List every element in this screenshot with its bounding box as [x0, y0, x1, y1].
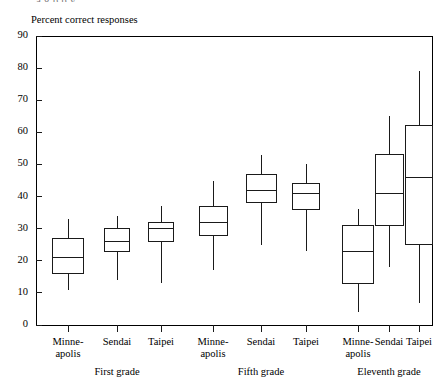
box-eleventh-grade-sendai [375, 116, 403, 267]
y-tick-label-80: 80 [2, 62, 28, 72]
box-body [406, 126, 433, 245]
y-tick-label-40: 40 [2, 191, 28, 201]
box-first-grade-sendai [105, 216, 130, 280]
plot-canvas [0, 0, 441, 386]
x-category-label-line: apolis [330, 348, 386, 360]
box-body [149, 222, 174, 241]
x-category-label-line: Taipei [133, 336, 189, 348]
x-category-label-line: Taipei [391, 336, 441, 348]
box-body [246, 174, 276, 203]
box-fifth-grade-minneapolis [199, 181, 227, 271]
y-tick-label-50: 50 [2, 158, 28, 168]
box-body [375, 155, 403, 226]
y-tick-label-30: 30 [2, 223, 28, 233]
group-label-1: Fifth grade [201, 366, 321, 377]
y-tick-label-90: 90 [2, 30, 28, 40]
box-body [105, 229, 130, 251]
x-category-label-8: Taipei [391, 336, 441, 348]
x-category-label-line: Minne- [40, 336, 96, 348]
y-tick-label-70: 70 [2, 94, 28, 104]
x-category-label-2: Taipei [133, 336, 189, 348]
x-category-label-line: apolis [40, 348, 96, 360]
x-category-label-0: Minne-apolis [40, 336, 96, 359]
box-body [53, 238, 84, 273]
x-category-label-line: apolis [185, 348, 241, 360]
box-fifth-grade-sendai [246, 155, 276, 245]
box-body [199, 206, 227, 235]
y-tick-label-10: 10 [2, 287, 28, 297]
y-tick-label-20: 20 [2, 255, 28, 265]
group-label-0: First grade [57, 366, 177, 377]
box-first-grade-taipei [149, 206, 174, 283]
box-first-grade-minneapolis [53, 219, 84, 290]
group-label-2: Eleventh grade [329, 366, 441, 377]
box-eleventh-grade-minneapolis [343, 209, 374, 312]
box-fifth-grade-taipei [293, 164, 320, 251]
y-tick-label-60: 60 [2, 126, 28, 136]
box-plot-figure: a g p p y Percent correct responses 0102… [0, 0, 441, 386]
x-category-label-line: Taipei [278, 336, 334, 348]
box-body [293, 184, 320, 210]
x-category-label-5: Taipei [278, 336, 334, 348]
box-body [343, 225, 374, 283]
box-eleventh-grade-taipei [406, 71, 433, 302]
y-tick-label-0: 0 [2, 319, 28, 329]
